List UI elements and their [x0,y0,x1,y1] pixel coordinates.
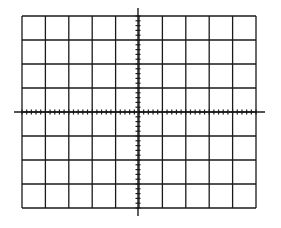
oscilloscope-graticule [0,0,281,228]
